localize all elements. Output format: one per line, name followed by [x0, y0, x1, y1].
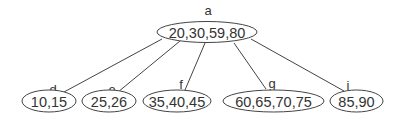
node-keys: 20,30,59,80	[169, 25, 246, 41]
node-g: g 60,65,70,75	[223, 76, 324, 112]
node-keys: 25,26	[91, 94, 127, 110]
edge-a-i	[251, 39, 344, 91]
edge-a-g	[234, 43, 266, 89]
edge-a-f	[185, 43, 205, 90]
node-keys: 35,40,45	[149, 94, 205, 110]
node-label: g	[268, 76, 275, 91]
node-keys: 10,15	[31, 94, 67, 110]
node-i: i 85,90	[330, 78, 383, 112]
node-e: e 25,26	[82, 82, 136, 112]
edges	[64, 39, 344, 92]
node-a: a 20,30,59,80	[157, 3, 257, 43]
node-d: d 10,15	[22, 82, 76, 112]
node-keys: 60,65,70,75	[235, 94, 312, 110]
node-label: a	[204, 3, 212, 18]
node-f: f 35,40,45	[143, 77, 211, 112]
node-keys: 85,90	[338, 94, 374, 110]
edge-a-e	[118, 41, 180, 92]
tree-diagram: a 20,30,59,80 d 10,15 e 25,26 f 35,40,45…	[0, 0, 399, 123]
